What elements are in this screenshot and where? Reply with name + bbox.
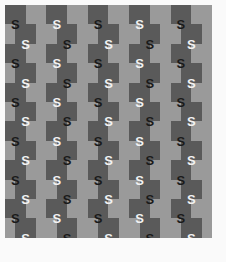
s-glyph: S bbox=[146, 231, 155, 238]
s-glyph: S bbox=[11, 134, 20, 147]
s-glyph: S bbox=[135, 18, 144, 31]
s-glyph: S bbox=[177, 96, 186, 109]
s-glyph: S bbox=[187, 193, 196, 206]
s-glyph: S bbox=[104, 115, 113, 128]
s-glyph: S bbox=[52, 212, 61, 225]
s-glyph: S bbox=[187, 115, 196, 128]
s-glyph: S bbox=[135, 57, 144, 70]
s-glyph: S bbox=[52, 57, 61, 70]
s-glyph: S bbox=[52, 173, 61, 186]
s-glyph: S bbox=[187, 231, 196, 238]
s-glyph: S bbox=[63, 193, 72, 206]
s-glyph: S bbox=[135, 96, 144, 109]
s-glyph: S bbox=[146, 37, 155, 50]
s-glyph: S bbox=[11, 18, 20, 31]
s-glyph: S bbox=[104, 193, 113, 206]
s-glyph: S bbox=[187, 154, 196, 167]
s-glyph: S bbox=[135, 173, 144, 186]
s-glyph: S bbox=[63, 154, 72, 167]
s-glyph: S bbox=[187, 37, 196, 50]
s-glyph: S bbox=[11, 212, 20, 225]
s-glyph: S bbox=[104, 76, 113, 89]
s-glyph: S bbox=[21, 154, 30, 167]
s-glyph: S bbox=[21, 193, 30, 206]
s-glyph: S bbox=[94, 173, 103, 186]
s-glyph: S bbox=[94, 57, 103, 70]
s-glyph: S bbox=[63, 76, 72, 89]
s-glyph: S bbox=[135, 134, 144, 147]
s-glyph: S bbox=[177, 212, 186, 225]
s-glyph: S bbox=[146, 154, 155, 167]
s-glyph: S bbox=[94, 96, 103, 109]
s-glyph: S bbox=[177, 173, 186, 186]
s-glyph: S bbox=[63, 37, 72, 50]
s-glyph: S bbox=[177, 134, 186, 147]
s-glyph: S bbox=[177, 18, 186, 31]
s-glyph: S bbox=[52, 18, 61, 31]
s-glyph: S bbox=[104, 154, 113, 167]
s-glyph: S bbox=[11, 173, 20, 186]
s-glyph: S bbox=[52, 96, 61, 109]
s-glyph: S bbox=[177, 57, 186, 70]
s-glyph: S bbox=[21, 231, 30, 238]
s-glyph: S bbox=[146, 76, 155, 89]
s-glyph: S bbox=[11, 96, 20, 109]
s-glyph: S bbox=[21, 76, 30, 89]
s-glyph: S bbox=[146, 193, 155, 206]
s-glyph: S bbox=[104, 231, 113, 238]
s-glyph: S bbox=[104, 37, 113, 50]
s-glyph: S bbox=[52, 134, 61, 147]
s-glyph: S bbox=[94, 134, 103, 147]
s-glyph: S bbox=[63, 231, 72, 238]
illusion-figure: SSSSSSSSSSSSSSSSSSSSSSSSSSSSSSSSSSSSSSSS… bbox=[0, 0, 226, 262]
checkerboard-pattern: SSSSSSSSSSSSSSSSSSSSSSSSSSSSSSSSSSSSSSSS… bbox=[5, 5, 212, 238]
s-glyph: S bbox=[21, 37, 30, 50]
s-glyph: S bbox=[63, 115, 72, 128]
s-glyph: S bbox=[94, 212, 103, 225]
s-glyph: S bbox=[187, 76, 196, 89]
s-glyph: S bbox=[11, 57, 20, 70]
s-glyph: S bbox=[94, 18, 103, 31]
s-glyph: S bbox=[21, 115, 30, 128]
s-glyph: S bbox=[146, 115, 155, 128]
s-glyph: S bbox=[135, 212, 144, 225]
